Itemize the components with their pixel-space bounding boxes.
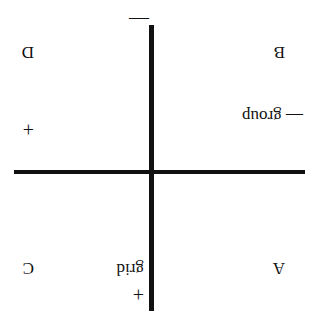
quadrant-c-label: C <box>23 260 34 277</box>
grid-axis-label: grid <box>117 261 144 278</box>
quadrant-d-label: D <box>22 44 34 61</box>
quadrant-a-label: A <box>273 260 285 277</box>
group-plus-sign: + <box>23 119 34 139</box>
horizontal-axis-group <box>14 170 305 174</box>
grid-plus-sign: + <box>133 284 144 304</box>
grid-minus-sign: — <box>129 10 149 30</box>
grid-group-diagram: + grid — — group + A B C D <box>0 0 313 322</box>
group-axis-label: — group <box>242 108 303 125</box>
quadrant-b-label: B <box>274 44 285 61</box>
vertical-axis-grid <box>149 25 154 311</box>
